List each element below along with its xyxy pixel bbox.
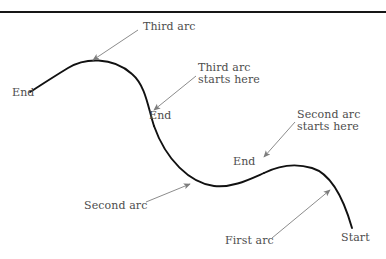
label-first-arc: First arc — [225, 235, 274, 247]
leader-second-arc — [146, 184, 190, 202]
label-third-arc-starts-here: Third arcstarts here — [198, 62, 260, 86]
label-third-arc: Third arc — [143, 21, 196, 33]
label-second-arc: Second arc — [84, 200, 147, 212]
curve-first-arc — [264, 165, 352, 228]
label-end-middle: End — [149, 110, 171, 122]
curve-third-arc — [30, 60, 154, 126]
leader-second-arc-starts-here — [264, 122, 295, 157]
leader-third-arc — [93, 30, 138, 60]
label-end-left: End — [12, 87, 34, 99]
spline-figure: Third arc Third arcstarts here Second ar… — [0, 0, 386, 259]
leader-third-arc-starts-here — [154, 76, 196, 110]
leader-first-arc — [272, 190, 330, 238]
label-end-right: End — [233, 156, 255, 168]
label-second-arc-starts-here: Second arcstarts here — [297, 109, 360, 133]
label-third-arc-starts-here-line2: starts here — [198, 74, 260, 86]
label-second-arc-starts-here-line2: starts here — [297, 121, 360, 133]
label-start: Start — [341, 232, 370, 244]
